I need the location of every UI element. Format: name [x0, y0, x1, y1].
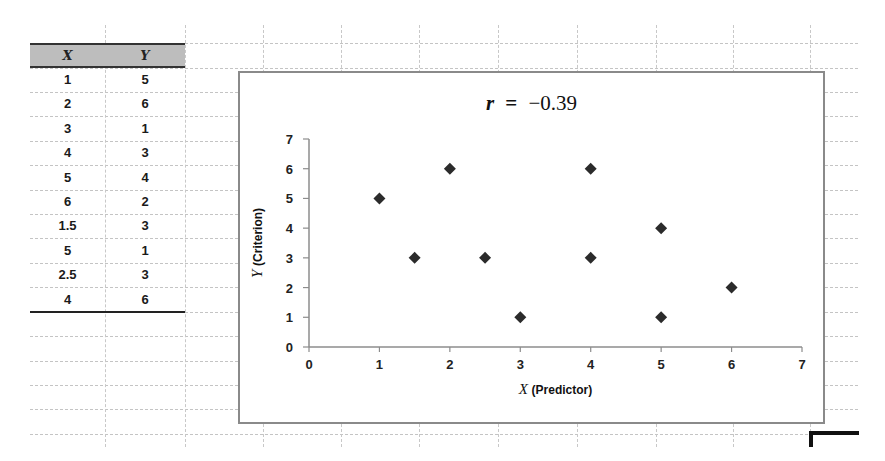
- column-header-x[interactable]: X: [30, 44, 105, 67]
- y-tick-label: 2: [286, 281, 293, 296]
- cell-x[interactable]: 3: [30, 117, 105, 141]
- cell-x[interactable]: 1.5: [30, 214, 105, 238]
- data-point-marker: [585, 252, 597, 264]
- data-point-marker: [479, 252, 491, 264]
- cell-x[interactable]: 4: [30, 288, 105, 312]
- data-point-marker: [514, 311, 526, 323]
- x-tick-label: 2: [446, 357, 453, 372]
- x-tick-label: 6: [728, 357, 735, 372]
- data-point-marker: [726, 282, 738, 294]
- cell-x[interactable]: 2.5: [30, 263, 105, 287]
- x-tick-label: 1: [376, 357, 383, 372]
- y-tick-label: 0: [286, 340, 293, 355]
- data-point-marker: [655, 311, 667, 323]
- spreadsheet-canvas: X Y 1526314354621.53512.5346 r = −0.39 0…: [0, 0, 885, 461]
- data-point-marker: [444, 163, 456, 175]
- x-tick-label: 4: [587, 357, 595, 372]
- selection-corner-mark-vertical: [809, 431, 813, 447]
- cell-y[interactable]: 6: [105, 288, 185, 312]
- y-axis-title: Y (Criterion): [249, 208, 265, 278]
- y-tick-label: 4: [286, 221, 294, 236]
- selection-corner-mark: [809, 431, 859, 435]
- cell-x[interactable]: 2: [30, 92, 105, 116]
- x-tick-label: 5: [658, 357, 665, 372]
- y-tick-label: 7: [286, 132, 293, 147]
- cell-y[interactable]: 1: [105, 117, 185, 141]
- cell-y[interactable]: 3: [105, 214, 185, 238]
- cell-y[interactable]: 4: [105, 166, 185, 190]
- x-tick-label: 7: [798, 357, 805, 372]
- data-point-marker: [585, 163, 597, 175]
- cell-x[interactable]: 4: [30, 141, 105, 165]
- table-bottom-border: [30, 311, 185, 313]
- cell-y[interactable]: 1: [105, 239, 185, 263]
- cell-x[interactable]: 1: [30, 68, 105, 92]
- data-point-marker: [655, 222, 667, 234]
- column-header-y[interactable]: Y: [105, 44, 185, 67]
- x-tick-label: 3: [517, 357, 524, 372]
- x-axis-title: X (Predictor): [518, 381, 593, 397]
- data-point-marker: [373, 192, 385, 204]
- y-tick-label: 1: [286, 310, 293, 325]
- cell-y[interactable]: 2: [105, 190, 185, 214]
- cell-x[interactable]: 6: [30, 190, 105, 214]
- gridline-column: [185, 25, 186, 447]
- cell-y[interactable]: 6: [105, 92, 185, 116]
- data-point-marker: [409, 252, 421, 264]
- scatter-chart[interactable]: r = −0.39 0123456701234567X (Predictor)Y…: [238, 71, 825, 424]
- x-tick-label: 0: [305, 357, 312, 372]
- cell-x[interactable]: 5: [30, 239, 105, 263]
- y-tick-label: 3: [286, 251, 293, 266]
- cell-y[interactable]: 5: [105, 68, 185, 92]
- cell-y[interactable]: 3: [105, 141, 185, 165]
- chart-plot-area: 0123456701234567X (Predictor)Y (Criterio…: [240, 73, 823, 422]
- y-tick-label: 6: [286, 162, 293, 177]
- y-tick-label: 5: [286, 191, 293, 206]
- cell-y[interactable]: 3: [105, 263, 185, 287]
- cell-x[interactable]: 5: [30, 166, 105, 190]
